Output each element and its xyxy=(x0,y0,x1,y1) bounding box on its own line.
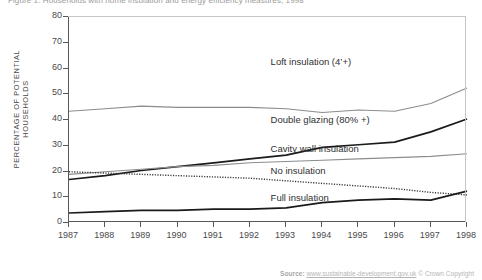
x-tick-label: 1995 xyxy=(337,230,377,240)
x-tick-label: 1996 xyxy=(374,230,414,240)
source-url-link[interactable]: www.sustainable-development.gov.uk xyxy=(307,270,417,277)
x-tick-label: 1991 xyxy=(193,230,233,240)
series-line xyxy=(69,88,467,112)
series-label: Loft insulation (4’+) xyxy=(271,56,352,67)
y-tick-label: 20 xyxy=(36,165,62,175)
y-tick-mark xyxy=(63,119,68,120)
x-tick-label: 1989 xyxy=(120,230,160,240)
x-tick-mark xyxy=(177,222,178,227)
chart-figure: Figure 1: Households with home insulatio… xyxy=(0,0,482,280)
series-label: Double glazing (80% +) xyxy=(271,114,370,125)
y-tick-mark xyxy=(63,42,68,43)
source-prefix: Source: xyxy=(280,270,305,277)
series-line xyxy=(69,172,467,195)
x-tick-label: 1998 xyxy=(446,230,482,240)
y-tick-mark xyxy=(63,68,68,69)
series-line xyxy=(69,191,467,213)
x-tick-label: 1997 xyxy=(410,230,450,240)
x-tick-label: 1990 xyxy=(157,230,197,240)
y-tick-mark xyxy=(63,196,68,197)
x-tick-label: 1987 xyxy=(48,230,88,240)
y-tick-label: 10 xyxy=(36,190,62,200)
series-label: Cavity wall insulation xyxy=(271,143,359,154)
x-tick-mark xyxy=(466,222,467,227)
x-tick-mark xyxy=(213,222,214,227)
y-tick-label: 30 xyxy=(36,139,62,149)
x-tick-label: 1992 xyxy=(229,230,269,240)
source-note: Source: www.sustainable-development.gov.… xyxy=(280,270,474,277)
figure-title: Figure 1: Households with home insulatio… xyxy=(8,0,438,6)
y-tick-label: 60 xyxy=(36,62,62,72)
x-tick-mark xyxy=(68,222,69,227)
x-tick-label: 1994 xyxy=(301,230,341,240)
series-lines xyxy=(69,16,467,222)
y-axis-label: PERCENTAGE OF POTENTIAL HOUSEHOLDS xyxy=(12,24,30,194)
series-label: No insulation xyxy=(271,165,326,176)
x-tick-mark xyxy=(104,222,105,227)
y-tick-mark xyxy=(63,171,68,172)
x-tick-label: 1993 xyxy=(265,230,305,240)
x-tick-mark xyxy=(140,222,141,227)
y-tick-mark xyxy=(63,93,68,94)
y-tick-label: 40 xyxy=(36,113,62,123)
y-tick-label: 80 xyxy=(36,10,62,20)
y-tick-label: 50 xyxy=(36,87,62,97)
x-tick-label: 1988 xyxy=(84,230,124,240)
y-tick-label: 70 xyxy=(36,36,62,46)
series-label: Full insulation xyxy=(271,192,329,203)
source-copyright: © Crown Copyright xyxy=(418,270,474,277)
x-tick-mark xyxy=(285,222,286,227)
x-tick-mark xyxy=(430,222,431,227)
y-tick-label: 0 xyxy=(36,216,62,226)
x-tick-mark xyxy=(394,222,395,227)
x-tick-mark xyxy=(321,222,322,227)
x-tick-mark xyxy=(357,222,358,227)
y-tick-mark xyxy=(63,16,68,17)
plot-area xyxy=(68,16,466,222)
x-tick-mark xyxy=(249,222,250,227)
y-tick-mark xyxy=(63,145,68,146)
